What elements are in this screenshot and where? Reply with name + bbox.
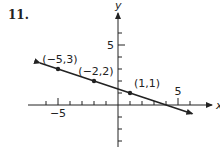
coordinate-plane: −555xy (−5,3)(−2,2)(1,1): [0, 0, 220, 147]
y-tick-label: 5: [107, 39, 114, 52]
x-tick-label: −5: [50, 107, 66, 120]
data-point: [56, 67, 60, 71]
data-point-label: (1,1): [134, 77, 160, 90]
x-axis-label: x: [215, 99, 220, 112]
data-point: [92, 79, 96, 83]
data-point: [128, 91, 132, 95]
x-tick-label: 5: [175, 85, 182, 98]
y-axis-label: y: [114, 0, 122, 12]
data-point-label: (−2,2): [78, 65, 113, 78]
data-point-label: (−5,3): [42, 53, 77, 66]
